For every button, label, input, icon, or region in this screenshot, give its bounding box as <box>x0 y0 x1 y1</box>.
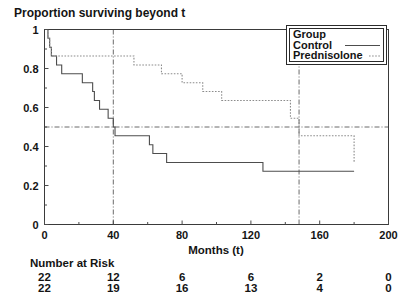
y-tick-label: 1 <box>32 24 38 36</box>
y-tick-label: 0 <box>32 219 38 231</box>
legend-entry-prednisolone-label: Prednisolone <box>293 49 363 61</box>
x-axis: 04080120160200 <box>41 221 397 241</box>
risk-cell-prednisolone-t0: 22 <box>38 282 51 294</box>
x-tick-label: 160 <box>311 229 329 241</box>
risk-cell-prednisolone-t80: 16 <box>176 282 189 294</box>
risk-table-heading: Number at Risk <box>30 257 115 269</box>
x-axis-label: Months (t) <box>188 244 244 256</box>
x-tick-label: 80 <box>176 229 188 241</box>
km-plot-svg: Proportion surviving beyond t 00.20.40.6… <box>0 0 415 305</box>
km-survival-figure: Proportion surviving beyond t 00.20.40.6… <box>0 0 415 305</box>
risk-cell-prednisolone-t120: 13 <box>245 282 258 294</box>
y-tick-label: 0.6 <box>23 102 38 114</box>
page-title: Proportion surviving beyond t <box>14 6 185 20</box>
x-tick-label: 0 <box>41 229 47 241</box>
risk-cell-prednisolone-t40: 19 <box>107 282 120 294</box>
risk-cell-prednisolone-t200: 0 <box>385 282 391 294</box>
y-tick-label: 0.2 <box>23 180 38 192</box>
x-tick-label: 200 <box>379 229 397 241</box>
y-tick-label: 0.4 <box>23 141 39 153</box>
risk-table: 221266202219161340 <box>38 271 392 294</box>
x-tick-label: 40 <box>107 229 119 241</box>
y-tick-label: 0.8 <box>23 63 38 75</box>
x-tick-label: 120 <box>242 229 260 241</box>
risk-cell-prednisolone-t160: 4 <box>316 282 323 294</box>
legend-box[interactable]: Group Control Prednisolone <box>287 26 387 65</box>
